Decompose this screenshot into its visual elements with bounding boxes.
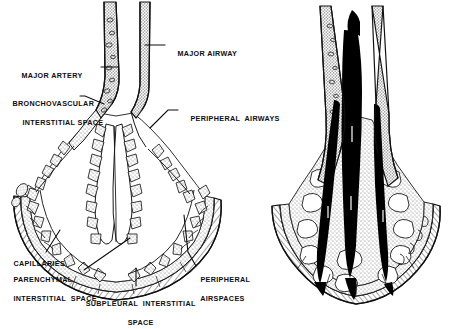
label-major-artery: MAJOR ARTERY	[12, 62, 83, 90]
label-peripheral-airspaces-line1: PERIPHERAL	[200, 275, 250, 284]
label-major-airway-line1: MAJOR AIRWAY	[177, 49, 237, 58]
label-peripheral-airspaces: PERIPHERAL AIRSPACES	[191, 266, 250, 312]
label-bronchovascular-interstitial-space: BRONCHOVASCULAR INTERSTITIAL SPACE	[3, 90, 104, 136]
label-peripheral-airspaces-line2: AIRSPACES	[200, 294, 245, 303]
label-bronchovascular-line1: BRONCHOVASCULAR	[12, 99, 94, 108]
label-major-artery-line1: MAJOR ARTERY	[21, 71, 82, 80]
label-subpleural-line1: SUBPLEURAL INTERSTITIAL	[86, 299, 196, 308]
label-peripheral-airways-line1: PERIPHERAL AIRWAYS	[190, 114, 279, 123]
leader-peripheral-airways	[150, 110, 178, 128]
label-parenchymal-line1: PARENCHYMAL	[13, 275, 72, 284]
label-major-airway: MAJOR AIRWAY	[168, 40, 237, 68]
label-subpleural-line2: SPACE	[128, 318, 154, 327]
label-subpleural-interstitial-space: SUBPLEURAL INTERSTITIAL SPACE	[68, 290, 204, 329]
label-bronchovascular-line2: INTERSTITIAL SPACE	[12, 118, 103, 127]
label-peripheral-airways: PERIPHERAL AIRWAYS	[181, 105, 280, 133]
right-panel-artwork	[272, 6, 440, 304]
fluid-filled-left-tip	[314, 282, 326, 296]
